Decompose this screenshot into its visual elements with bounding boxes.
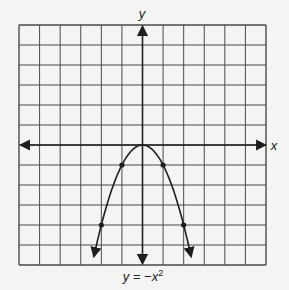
caption-eq: = −: [129, 269, 151, 284]
y-axis-label: y: [138, 6, 147, 21]
x-axis-label: x: [270, 138, 278, 153]
parabola-graph: y x y = −x2: [0, 0, 289, 290]
caption-exponent: 2: [158, 268, 163, 278]
data-point: [160, 162, 165, 167]
equation-caption: y = −x2: [122, 268, 163, 284]
data-point: [119, 162, 124, 167]
data-point: [99, 222, 104, 227]
data-point: [181, 222, 186, 227]
